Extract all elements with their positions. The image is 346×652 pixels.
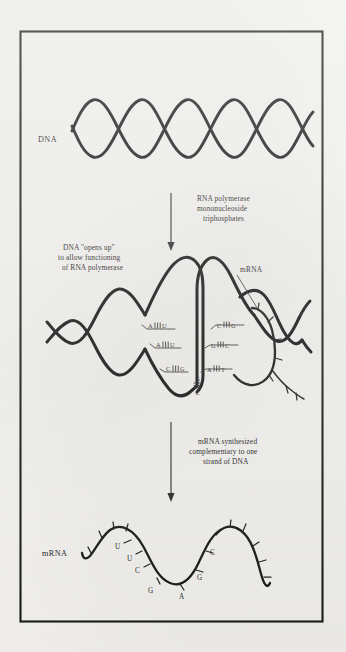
base-pair-rung-left-3: C G (160, 365, 188, 373)
mrna-transcript-strand (234, 308, 275, 385)
base-pair-rung-right-3: A T (201, 366, 232, 373)
mrna-product-label: mRNA (42, 549, 67, 558)
caption-line: complementary to one (189, 447, 258, 456)
base-pair-rung-right-1: C G (211, 322, 244, 330)
caption-line: to allow functioning (58, 253, 121, 262)
base-pair-rung-left-2: A U (150, 341, 181, 349)
mrna-base-letter: C (135, 567, 140, 575)
dna-open-left-strand-b (47, 321, 145, 375)
base-pair-rung-bottom: G C (194, 375, 201, 396)
base-transcript: C (225, 342, 229, 349)
dna-open-right-tail-b (302, 340, 311, 352)
figure-canvas: DNA RNA polymerase mononucleoside tripho… (0, 0, 346, 652)
base-template: G (211, 342, 216, 349)
figure-frame (21, 32, 323, 622)
caption-line: DNA "opens up" (63, 243, 115, 252)
mrna-transcript-tail (272, 370, 304, 399)
caption-line: mRNA synthesized (198, 437, 257, 446)
opened-dna-group: mRNA DNA "opens up" to allow functioning… (47, 243, 311, 400)
mrna-synthesized-caption: mRNA synthesized complementary to one st… (189, 437, 258, 466)
mrna-base-letter: A (179, 593, 185, 601)
base-transcript: C (196, 389, 200, 396)
base-transcript: G (180, 365, 185, 372)
dna-open-left-strand-a (47, 289, 145, 343)
caption-line: RNA polymerase (197, 194, 250, 203)
base-pair-rung-left-1: A U (142, 322, 175, 330)
mrna-product-ticks (88, 520, 271, 590)
dna-opens-caption: DNA "opens up" to allow functioning of R… (58, 243, 124, 272)
mrna-base-letter: U (115, 543, 121, 551)
base-template: C (166, 365, 170, 372)
base-template: C (217, 322, 221, 329)
caption-line: triphosphates (203, 214, 244, 223)
base-pair-rung-right-2: G C (205, 342, 238, 349)
base-template: G (196, 375, 201, 382)
dna-open-right-tail-a (299, 301, 310, 318)
base-template: A (207, 366, 212, 373)
flow-arrow-1 (167, 193, 174, 251)
dna-helix-group: DNA (38, 100, 313, 158)
rna-polymerase-caption: RNA polymerase mononucleoside triphospha… (197, 194, 250, 223)
mrna-product-strand (82, 527, 270, 586)
base-template: A (148, 322, 153, 329)
base-transcript: G (231, 322, 236, 329)
caption-line: of RNA polymerase (62, 263, 124, 272)
base-transcript: U (170, 341, 175, 348)
mrna-product-group: U U C G A G C mRNA (42, 520, 271, 601)
base-transcript: U (162, 322, 167, 329)
caption-line: mononucleoside (197, 204, 248, 213)
base-transcript: T (221, 366, 225, 373)
dna-label: DNA (38, 135, 57, 144)
caption-line: strand of DNA (203, 457, 249, 466)
mrna-callout-label: mRNA (240, 265, 263, 274)
base-template: A (156, 341, 161, 348)
mrna-base-letter: U (127, 555, 133, 563)
transcription-figure: DNA RNA polymerase mononucleoside tripho… (0, 0, 346, 652)
flow-arrow-2 (167, 422, 174, 502)
mrna-base-letter: G (148, 587, 153, 595)
mrna-base-letter: C (210, 549, 215, 557)
mrna-base-letter: G (197, 574, 202, 582)
